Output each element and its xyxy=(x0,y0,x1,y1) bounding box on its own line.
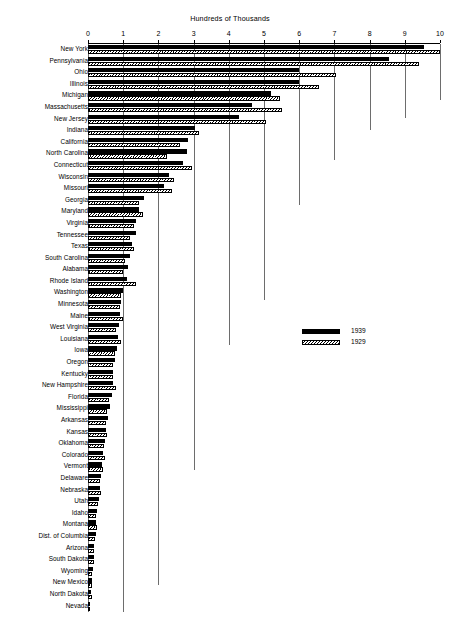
bar-1939 xyxy=(88,416,108,420)
chart-row: Kentucky xyxy=(0,369,460,381)
category-label: Missouri xyxy=(64,184,88,191)
category-label: Connecticut xyxy=(54,161,88,168)
bar-1929 xyxy=(88,96,280,100)
chart-row: Illinois xyxy=(0,79,460,91)
category-label: Minnesota xyxy=(58,300,88,307)
bar-1929 xyxy=(88,73,336,77)
bar-1929 xyxy=(88,572,92,576)
bar-1939 xyxy=(88,567,93,571)
chart-row: Maryland xyxy=(0,206,460,218)
bar-1929 xyxy=(88,607,90,611)
legend-label: 1929 xyxy=(351,338,366,345)
category-label: Illinois xyxy=(70,80,88,87)
bar-1939 xyxy=(88,265,128,269)
category-label: Pennsylvania xyxy=(49,57,88,64)
category-label: Arkansas xyxy=(61,416,88,423)
bar-1939 xyxy=(88,149,187,153)
bar-1929 xyxy=(88,433,107,437)
chart-row: Kansas xyxy=(0,427,460,439)
chart-row: Utah xyxy=(0,496,460,508)
chart-row: Dist. of Columbia xyxy=(0,531,460,543)
category-label: Iowa xyxy=(74,346,88,353)
bar-1939 xyxy=(88,462,102,466)
bar-1939 xyxy=(88,602,90,606)
bar-1929 xyxy=(88,108,282,112)
bar-1929 xyxy=(88,143,180,147)
bar-1939 xyxy=(88,91,271,95)
bar-1939 xyxy=(88,404,110,408)
bar-1939 xyxy=(88,381,113,385)
chart-row: Arkansas xyxy=(0,415,460,427)
chart-row: Arizona xyxy=(0,543,460,555)
category-label: Georgia xyxy=(65,196,88,203)
category-label: Wyoming xyxy=(61,567,88,574)
category-label: South Dakota xyxy=(49,555,88,562)
chart-row: Maine xyxy=(0,311,460,323)
category-label: South Carolina xyxy=(45,254,88,261)
chart-row: Tennessee xyxy=(0,230,460,242)
category-label: North Carolina xyxy=(46,149,88,156)
bar-1939 xyxy=(88,312,120,316)
chart-row: California xyxy=(0,137,460,149)
bar-1929 xyxy=(88,386,116,390)
bar-1939 xyxy=(88,80,299,84)
category-label: New Jersey xyxy=(54,115,88,122)
bar-1939 xyxy=(88,115,239,119)
bar-1939 xyxy=(88,520,96,524)
category-label: New York xyxy=(61,45,88,52)
bar-1939 xyxy=(88,486,100,490)
bar-1929 xyxy=(88,247,134,251)
bar-1929 xyxy=(88,282,136,286)
bar-1939 xyxy=(88,590,91,594)
category-label: Nebraska xyxy=(60,486,88,493)
category-label: New Mexico xyxy=(53,578,88,585)
bar-1929 xyxy=(88,224,134,228)
bar-1929 xyxy=(88,131,199,135)
chart-row: New Jersey xyxy=(0,114,460,126)
bar-1939 xyxy=(88,288,123,292)
bar-1929 xyxy=(88,549,94,553)
bar-1939 xyxy=(88,358,115,362)
chart-row: Virginia xyxy=(0,218,460,230)
chart-row: Louisiana xyxy=(0,334,460,346)
chart-row: Wyoming xyxy=(0,566,460,578)
category-label: Dist. of Columbia xyxy=(38,532,88,539)
bar-1939 xyxy=(88,578,92,582)
category-label: Massachusetts xyxy=(45,103,88,110)
bar-1929 xyxy=(88,595,92,599)
chart-row: Nebraska xyxy=(0,485,460,497)
bar-1939 xyxy=(88,57,389,61)
category-label: Arizona xyxy=(66,544,88,551)
category-label: Idaho xyxy=(72,509,88,516)
chart-row: Colorado xyxy=(0,450,460,462)
bar-1929 xyxy=(88,270,123,274)
category-label: Delaware xyxy=(61,474,88,481)
bar-1929 xyxy=(88,363,113,367)
chart-row: South Dakota xyxy=(0,554,460,566)
chart-row: Texas xyxy=(0,241,460,253)
bar-1939 xyxy=(88,207,139,211)
chart-row: Nevada xyxy=(0,601,460,613)
legend-label: 1939 xyxy=(351,327,366,334)
bar-1939 xyxy=(88,335,118,339)
bar-1929 xyxy=(88,351,115,355)
bar-1939 xyxy=(88,45,424,49)
bar-1939 xyxy=(88,126,195,130)
chart-row: North Dakota xyxy=(0,589,460,601)
bar-1939 xyxy=(88,393,112,397)
category-label: Wisconsin xyxy=(58,173,88,180)
category-label: Virginia xyxy=(66,219,88,226)
bar-1939 xyxy=(88,497,99,501)
category-label: Oregon xyxy=(66,358,88,365)
category-label: Washington xyxy=(54,288,88,295)
category-label: Indiana xyxy=(67,126,88,133)
category-label: New Hampshire xyxy=(42,381,88,388)
bar-1939 xyxy=(88,509,97,513)
bar-1929 xyxy=(88,421,106,425)
bar-1929 xyxy=(88,305,120,309)
category-label: Montana xyxy=(63,520,88,527)
bar-1929 xyxy=(88,340,121,344)
bar-1939 xyxy=(88,370,113,374)
bar-1929 xyxy=(88,62,419,66)
bar-1939 xyxy=(88,103,252,107)
